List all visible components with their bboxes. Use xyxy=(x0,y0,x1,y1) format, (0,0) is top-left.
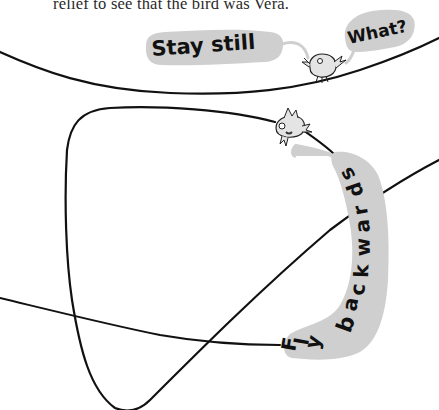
svg-text:c: c xyxy=(345,283,370,297)
illustration: Stay still What? F l y b a c k w a r xyxy=(0,0,439,410)
cross-line xyxy=(0,298,280,345)
speech-bubble-fly-backwards: F l y b a c k w a r d s xyxy=(276,146,388,360)
speech-bubble-what: What? xyxy=(345,10,415,63)
bird-vera-icon xyxy=(276,108,312,146)
svg-text:w: w xyxy=(350,237,375,256)
book-page: relief to see that the bird was Vera. St… xyxy=(0,0,439,410)
speech-bubble-stay-still: Stay still xyxy=(146,30,308,66)
svg-text:a: a xyxy=(350,218,375,234)
svg-text:k: k xyxy=(349,263,373,278)
